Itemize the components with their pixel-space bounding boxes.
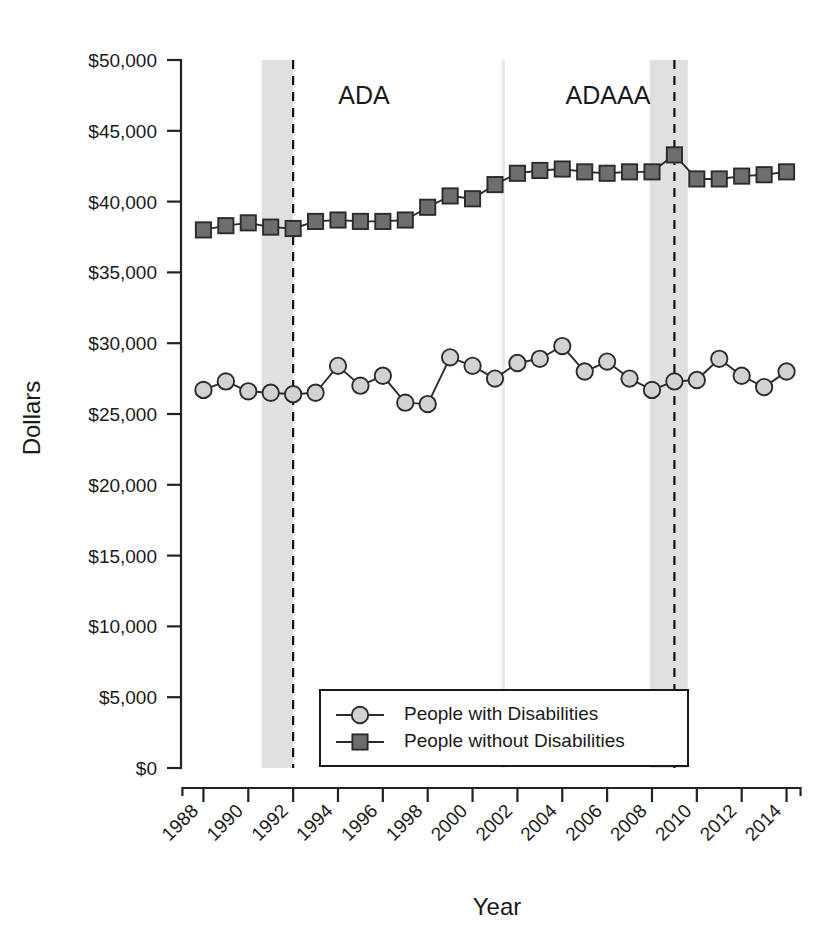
data-point [644,382,660,398]
data-point [778,363,794,379]
legend-frame [320,690,688,766]
data-point [352,377,368,393]
data-point [599,353,615,369]
data-point [621,370,637,386]
data-point [487,177,502,192]
data-point [308,214,323,229]
line-chart-svg: $0$5,000$10,000$15,000$20,000$25,000$30,… [0,0,823,937]
data-point [420,396,436,412]
data-point [263,219,278,234]
data-point [666,373,682,389]
data-point [218,218,233,233]
y-axis-title: Dollars [18,381,45,456]
data-point [398,212,413,227]
data-point [397,394,413,410]
legend-label: People without Disabilities [404,730,625,751]
data-point [330,358,346,374]
data-point [757,167,772,182]
y-tick-label: $25,000 [88,404,157,425]
data-point [353,214,368,229]
y-tick-label: $5,000 [99,687,157,708]
data-point [196,222,211,237]
chart-figure: $0$5,000$10,000$15,000$20,000$25,000$30,… [0,0,823,937]
data-point [195,382,211,398]
y-tick-label: $20,000 [88,475,157,496]
data-point [622,164,637,179]
annotation-label-ada: ADA [338,81,390,109]
data-point [644,164,659,179]
recession-band [262,60,293,768]
y-tick-label: $10,000 [88,616,157,637]
y-tick-label: $15,000 [88,546,157,567]
y-tick-label: $50,000 [88,50,157,71]
legend-label: People with Disabilities [404,703,598,724]
x-axis-title: Year [473,893,522,920]
data-point [285,386,301,402]
data-point [600,166,615,181]
data-point [689,372,705,388]
data-point [711,351,727,367]
data-point [510,166,525,181]
data-point [487,370,503,386]
data-point [577,164,592,179]
data-point [420,200,435,215]
legend-marker-square-icon [352,734,367,749]
y-tick-label: $30,000 [88,333,157,354]
data-point [375,368,391,384]
data-point [307,385,323,401]
data-point [509,355,525,371]
data-point [756,379,772,395]
data-point [443,188,458,203]
y-tick-label: $35,000 [88,262,157,283]
legend-marker-circle-icon [352,707,368,723]
data-point [375,214,390,229]
data-point [577,363,593,379]
data-point [712,171,727,186]
y-tick-label: $45,000 [88,121,157,142]
data-point [330,212,345,227]
data-point [263,385,279,401]
data-point [667,147,682,162]
data-point [442,349,458,365]
annotation-label-adaaa: ADAAA [566,81,651,109]
data-point [218,373,234,389]
y-tick-label: $0 [136,758,157,779]
y-tick-label: $40,000 [88,192,157,213]
data-point [241,215,256,230]
data-point [464,358,480,374]
data-point [286,221,301,236]
data-point [240,383,256,399]
legend: People with DisabilitiesPeople without D… [320,690,688,766]
data-point [465,191,480,206]
recession-band [502,60,505,768]
data-point [555,161,570,176]
data-point [689,171,704,186]
data-point [554,338,570,354]
data-point [532,163,547,178]
data-point [779,164,794,179]
data-point [532,351,548,367]
data-point [733,368,749,384]
data-point [734,169,749,184]
